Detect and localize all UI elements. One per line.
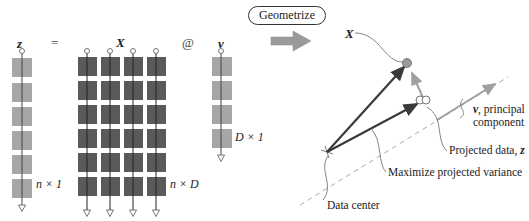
v-dimensions: D × 1 xyxy=(235,130,264,145)
variance-label: Maximize projected variance xyxy=(388,166,522,178)
X-point xyxy=(403,59,412,68)
projected-point xyxy=(422,96,430,104)
X-point-label: X xyxy=(345,26,354,42)
principal-text-line2: component xyxy=(473,116,524,128)
X-dimensions: n × D xyxy=(170,177,199,192)
projected-text: Projected data, xyxy=(449,144,520,156)
projected-data-label: Projected data, z xyxy=(449,144,525,156)
data-vector-X xyxy=(327,67,404,152)
matrix-diagram xyxy=(0,0,529,221)
principal-text: , principal xyxy=(478,103,525,115)
data-center-label: Data center xyxy=(327,199,380,211)
z-vector-column xyxy=(12,49,32,206)
projected-var: z xyxy=(520,144,524,156)
v-vector-column xyxy=(212,49,232,156)
projection-vector xyxy=(327,104,417,152)
geometrize-arrow-icon xyxy=(271,31,311,51)
z-dimensions: n × 1 xyxy=(36,177,62,192)
geometrize-button[interactable]: Geometrize xyxy=(248,6,326,25)
X-matrix-grid xyxy=(78,49,166,211)
principal-component-label: v, principal component xyxy=(473,103,525,129)
